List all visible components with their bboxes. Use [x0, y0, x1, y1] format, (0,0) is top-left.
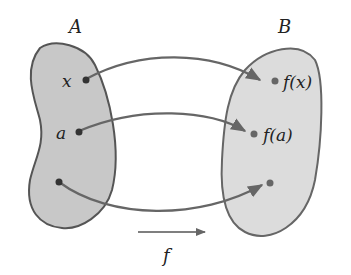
point-fx-label: f(x)	[281, 72, 312, 92]
point-fa-label: f(a)	[261, 125, 293, 145]
function-label: f	[161, 245, 173, 266]
point-x	[83, 77, 90, 84]
arrow-x-to-fx	[86, 57, 260, 80]
point-x-label: x	[62, 71, 72, 91]
point-fa	[251, 131, 258, 138]
function-mapping-diagram: A B x a f(x) f(a) f	[0, 0, 351, 275]
point-third-a	[56, 179, 63, 186]
set-a-label: A	[67, 16, 82, 37]
point-third-b	[267, 180, 274, 187]
point-a-label: a	[56, 123, 66, 143]
set-b-label: B	[277, 16, 291, 37]
point-fx	[272, 78, 279, 85]
point-a	[76, 129, 83, 136]
